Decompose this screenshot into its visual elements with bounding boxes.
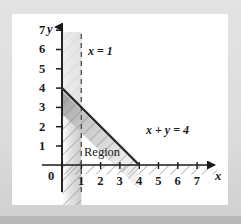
y-tick-label-3: 3 [39,101,45,114]
y-tick-label-5: 5 [39,63,45,76]
x-tick-label-2: 2 [97,175,103,188]
region-label: Region [84,146,120,159]
bottom-edge-strip [0,216,241,224]
slant-line-label: x + y = 4 [146,124,189,136]
y-tick-label-1: 1 [39,140,45,153]
figure-root: 7 6 5 4 3 2 1 0 1 2 3 4 5 6 7 y x x = 1 … [0,0,241,224]
vertical-line-label: x = 1 [88,45,113,57]
x-tick-label-3: 3 [117,175,123,188]
x-axis-name: x [215,170,221,183]
origin-label: 0 [48,170,54,183]
y-tick-label-6: 6 [39,43,45,56]
x-tick-label-7: 7 [194,175,200,188]
y-axis-name: y [47,23,53,36]
x-tick-label-1: 1 [78,175,84,188]
x-tick-label-4: 4 [136,175,142,188]
x-tick-label-6: 6 [175,175,181,188]
y-tick-label-4: 4 [39,82,45,95]
y-tick-label-2: 2 [39,121,45,134]
x-tick-label-5: 5 [155,175,161,188]
plot-panel: 7 6 5 4 3 2 1 0 1 2 3 4 5 6 7 y x x = 1 … [12,14,228,205]
y-tick-label-7: 7 [39,24,45,37]
